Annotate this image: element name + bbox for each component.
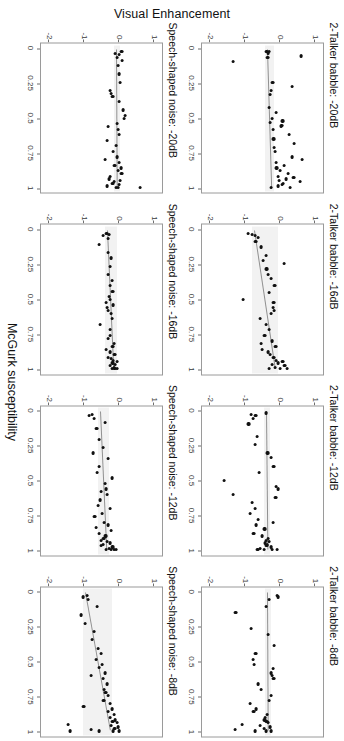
panel-title: 2-Talker babble: -12dB	[325, 385, 340, 556]
data-point	[253, 506, 256, 509]
data-point	[256, 548, 259, 551]
data-point	[100, 538, 103, 541]
data-point	[254, 239, 257, 242]
data-point	[277, 174, 280, 177]
x-tick-mark	[198, 299, 201, 300]
x-tick-label: 0.25	[26, 256, 35, 272]
data-point	[252, 710, 255, 713]
y-axis-label: Visual Enhancement	[0, 4, 344, 22]
data-point	[102, 698, 105, 701]
x-tick-mark	[198, 445, 201, 446]
data-point	[233, 727, 236, 730]
data-point	[110, 278, 113, 281]
x-tick-label: 0.25	[26, 619, 35, 635]
data-point	[111, 289, 114, 292]
data-point	[248, 512, 251, 515]
y-tick-label: -2	[44, 213, 53, 220]
data-point	[110, 723, 113, 726]
data-point	[275, 548, 278, 551]
y-tick-label: -2	[205, 213, 214, 220]
data-point	[266, 632, 269, 635]
data-point	[101, 234, 104, 237]
y-tick-label: -1	[240, 394, 249, 401]
data-point	[300, 54, 303, 57]
x-tick-mark	[198, 369, 201, 370]
panel-title: 2-Talker babble: -20dB	[325, 22, 340, 193]
x-tick-label: 0	[187, 45, 196, 49]
data-point	[272, 137, 275, 140]
data-point	[114, 144, 117, 147]
x-tick-label: 0.75	[187, 689, 196, 705]
x-tick-label: 0.75	[187, 326, 196, 342]
x-tick-label: 0.25	[187, 75, 196, 91]
data-point	[103, 520, 106, 523]
y-tick-label: 0	[115, 35, 124, 39]
confidence-band-halo	[264, 407, 270, 554]
data-point	[117, 729, 120, 732]
y-axis: 10-1-2	[40, 22, 163, 42]
data-point	[121, 58, 124, 61]
data-point	[273, 308, 276, 311]
x-tick-mark	[37, 515, 40, 516]
data-point	[107, 693, 110, 696]
rotated-figure: Visual Enhancement 2-Talker babble: -20d…	[0, 0, 344, 741]
data-point	[275, 166, 278, 169]
data-point	[272, 300, 275, 303]
x-tick-mark	[198, 48, 201, 49]
data-point	[114, 548, 117, 551]
data-point	[264, 253, 267, 256]
data-point	[248, 701, 251, 704]
y-tick-label: 1	[150, 216, 159, 220]
data-point	[260, 534, 263, 537]
data-point	[268, 598, 271, 601]
data-point	[87, 414, 90, 417]
data-point	[100, 490, 103, 493]
x-tick-mark	[37, 591, 40, 592]
data-point	[272, 465, 275, 468]
scatter-panel: 2-Talker babble: -20dB10-1-200.250.50.75…	[183, 22, 340, 193]
plot-area: 10-1-200.250.50.751	[22, 203, 163, 374]
data-point	[108, 701, 111, 704]
data-point	[278, 178, 281, 181]
data-point	[116, 155, 119, 158]
data-point	[264, 729, 267, 732]
y-axis: 10-1-2	[201, 22, 324, 42]
x-axis: 00.250.50.751	[183, 405, 201, 556]
data-point	[101, 676, 104, 679]
data-point	[110, 528, 113, 531]
data-point	[82, 704, 85, 707]
x-axis-label: McGurk susceptibility	[2, 22, 22, 741]
x-tick-label: 0.5	[187, 112, 196, 123]
x-tick-mark	[198, 480, 201, 481]
data-point	[112, 729, 115, 732]
plot-frame	[201, 42, 324, 193]
data-point	[269, 693, 272, 696]
y-tick-label: -1	[79, 576, 88, 583]
confidence-band-halo	[83, 588, 113, 735]
x-tick-label: 1	[26, 185, 35, 189]
data-point	[264, 411, 267, 414]
y-tick-label: -2	[44, 32, 53, 39]
data-point	[97, 242, 100, 245]
data-point	[81, 595, 84, 598]
data-point	[279, 366, 282, 369]
plot-area: 10-1-200.250.50.751	[22, 22, 163, 193]
data-point	[85, 593, 88, 596]
data-point	[117, 169, 120, 172]
x-tick-label: 0	[26, 408, 35, 412]
data-point	[281, 119, 284, 122]
data-point	[117, 99, 120, 102]
data-point	[258, 317, 261, 320]
x-tick-label: 0	[26, 589, 35, 593]
data-point	[269, 120, 272, 123]
plot-frame	[40, 405, 163, 556]
data-point	[268, 698, 271, 701]
y-axis: 10-1-2	[40, 385, 163, 405]
y-axis: 10-1-2	[201, 566, 324, 586]
data-point	[117, 64, 120, 67]
x-tick-mark	[198, 661, 201, 662]
data-point	[120, 171, 123, 174]
plot-frame	[40, 42, 163, 193]
data-point	[282, 261, 285, 264]
y-tick-label: -1	[79, 394, 88, 401]
